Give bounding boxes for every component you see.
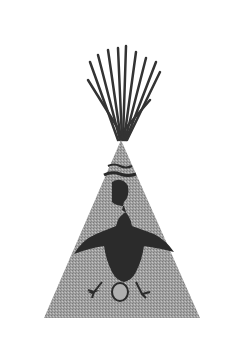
tipi-illustration [0,0,243,353]
tipi-poles [88,46,160,140]
